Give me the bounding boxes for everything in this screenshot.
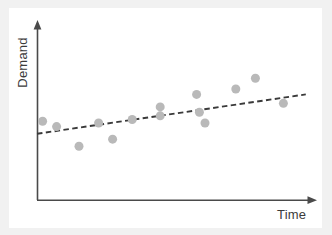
- data-point: [231, 85, 240, 94]
- data-points-group: [38, 74, 288, 151]
- chart-canvas: [0, 0, 332, 235]
- y-axis-label: Demand: [16, 27, 29, 99]
- data-point: [94, 119, 103, 128]
- data-point: [38, 117, 47, 126]
- data-point: [75, 142, 84, 151]
- x-axis-label: Time: [277, 208, 306, 221]
- data-point: [128, 115, 137, 124]
- scatter-chart-figure: Demand Time: [0, 0, 332, 235]
- trend-line: [37, 94, 306, 133]
- y-axis: [34, 20, 42, 200]
- data-point: [156, 111, 165, 120]
- data-point: [279, 99, 288, 108]
- data-point: [251, 74, 260, 83]
- data-point: [52, 122, 61, 131]
- data-point: [192, 90, 201, 99]
- data-point: [156, 102, 165, 111]
- x-axis: [37, 196, 317, 204]
- data-point: [195, 108, 204, 117]
- data-point: [108, 135, 117, 144]
- data-point: [201, 119, 210, 128]
